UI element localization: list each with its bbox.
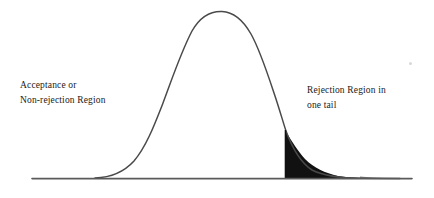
acceptance-region-label: Acceptance or Non-rejection Region xyxy=(20,78,106,108)
rejection-region-label-line1: Rejection Region in xyxy=(307,83,386,98)
acceptance-region-label-line1: Acceptance or xyxy=(20,78,106,93)
acceptance-region-label-line2: Non-rejection Region xyxy=(20,93,106,108)
rejection-region-label-line2: one tail xyxy=(307,98,386,113)
scan-artifact-speck xyxy=(409,62,412,65)
statistics-figure: Acceptance or Non-rejection Region Rejec… xyxy=(0,0,434,198)
rejection-region-label: Rejection Region in one tail xyxy=(307,83,386,113)
